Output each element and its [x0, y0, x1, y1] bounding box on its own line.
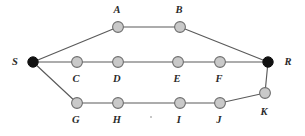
- graph-diagram: SABCDEFRGHIJK: [0, 0, 305, 136]
- graph-node-k: [260, 88, 271, 99]
- graph-node-f: [215, 57, 226, 68]
- node-label-b: B: [175, 5, 182, 16]
- graph-node-c: [72, 57, 83, 68]
- graph-node-s: [28, 57, 38, 67]
- node-label-g: G: [72, 115, 80, 126]
- graph-edge-b-r: [180, 27, 268, 62]
- scan-artifact-speck: [150, 116, 152, 118]
- graph-node-g: [72, 98, 83, 109]
- graph-edge-j-k: [220, 93, 265, 103]
- nodes-layer: [28, 22, 273, 109]
- graph-node-r: [263, 57, 273, 67]
- node-label-f: F: [215, 74, 222, 85]
- graph-edge-s-g: [33, 62, 77, 103]
- node-label-a: A: [113, 5, 120, 16]
- node-label-c: C: [72, 74, 79, 85]
- graph-node-j: [215, 98, 226, 109]
- graph-node-b: [175, 22, 186, 33]
- graph-node-h: [113, 98, 124, 109]
- node-label-k: K: [260, 107, 267, 118]
- node-label-h: H: [113, 115, 121, 126]
- node-label-j: J: [216, 115, 221, 126]
- graph-node-a: [113, 22, 124, 33]
- node-label-i: I: [177, 115, 181, 126]
- graph-node-e: [173, 57, 184, 68]
- node-label-d: D: [113, 74, 121, 85]
- node-label-s: S: [12, 57, 18, 68]
- graph-node-d: [113, 57, 124, 68]
- edges-layer: [33, 27, 268, 103]
- node-label-e: E: [173, 74, 180, 85]
- node-label-r: R: [284, 57, 291, 68]
- graph-canvas: [0, 0, 305, 136]
- graph-node-i: [175, 98, 186, 109]
